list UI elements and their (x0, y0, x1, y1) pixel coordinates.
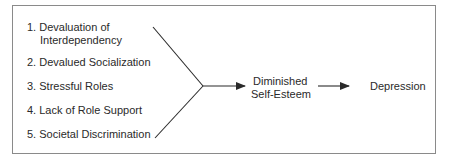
mediator-line1: Diminished (253, 75, 307, 88)
converge-line-bottom (155, 86, 203, 138)
outcome-label: Depression (370, 80, 426, 93)
mediator-line2: Self-Esteem (251, 88, 309, 101)
converge-line-top (153, 27, 203, 86)
